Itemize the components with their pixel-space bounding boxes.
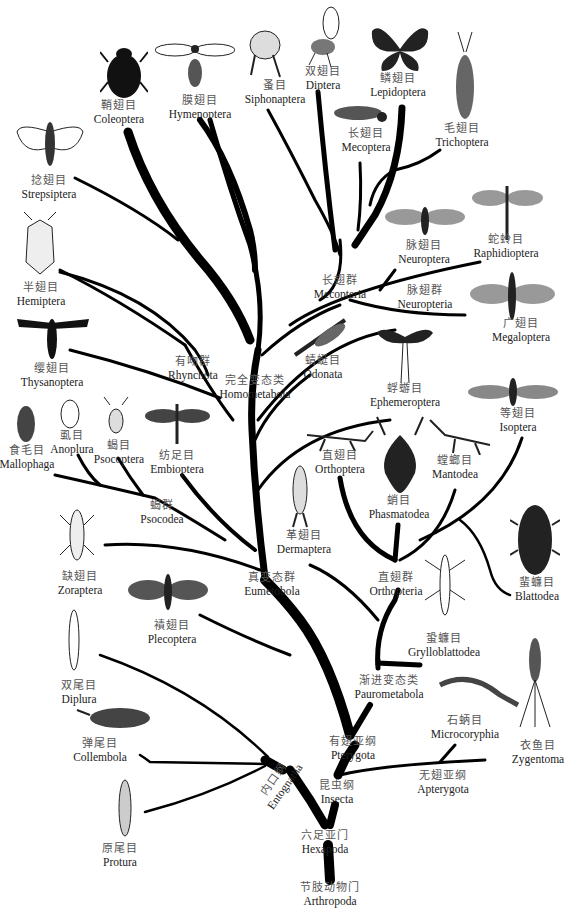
label-en: Mallophaga	[0, 458, 54, 472]
label-zh: 蝎群	[140, 500, 183, 513]
label-en: Neuropteria	[398, 298, 453, 312]
label-dermaptera: 革翅目Dermaptera	[277, 530, 331, 557]
label-zh: 蛸目	[369, 495, 430, 508]
label-zh: 缨翅目	[21, 363, 84, 376]
label-en: Megaloptera	[492, 331, 550, 345]
label-hexapoda: 六足亚门Hexapoda	[301, 830, 349, 857]
label-en: Mantodea	[432, 468, 478, 482]
label-en: Diplura	[61, 693, 97, 707]
label-zh: 渐进变态类	[355, 675, 424, 688]
label-en: Thysanoptera	[21, 376, 84, 390]
mayfly-icon	[375, 325, 435, 385]
label-en: Phasmatodea	[369, 508, 430, 522]
label-mecoptera: 长翅目Mecoptera	[341, 128, 390, 155]
booklouse-icon	[102, 395, 130, 435]
label-en: Orthoptera	[315, 463, 365, 477]
leaf-insect-icon	[375, 415, 425, 495]
label-zh: 节肢动物门	[300, 882, 360, 895]
label-en: Trichoptera	[435, 136, 488, 150]
label-zh: 蚤目	[245, 80, 306, 93]
label-en: Homometabola	[220, 388, 291, 402]
label-en: Ephemeroptera	[370, 396, 440, 410]
label-anoplura: 虱目Anoplura	[50, 430, 93, 457]
label-zh: 原尾目	[102, 843, 138, 856]
label-coleoptera: 鞘翅目Coleoptera	[94, 100, 144, 127]
label-zh: 蜉蝣目	[370, 383, 440, 396]
rock-crawler-icon	[420, 545, 470, 630]
label-en: Collembola	[73, 751, 127, 765]
label-en: Paurometabola	[355, 688, 424, 702]
label-mallophaga: 食毛目Mallophaga	[0, 445, 54, 472]
branch-neuroptera	[380, 270, 395, 290]
label-zh: 纺足目	[150, 450, 204, 463]
termite-icon	[468, 372, 558, 412]
scorpionfly-icon	[330, 95, 390, 130]
label-zh: 衣鱼目	[512, 740, 564, 753]
zoraptera-icon	[60, 495, 95, 570]
label-en: Psocodea	[140, 513, 183, 527]
label-apterygota: 无翅亚纲Apterygota	[417, 770, 469, 797]
branch-hymenoptera	[200, 120, 255, 270]
label-arthropoda: 节肢动物门Arthropoda	[300, 882, 360, 909]
bristletail-icon	[430, 665, 520, 710]
label-en: Coleoptera	[94, 113, 144, 127]
butterfly-icon	[370, 25, 430, 73]
label-zoraptera: 缺翅目Zoraptera	[58, 571, 103, 598]
label-zh: 广翅目	[492, 318, 550, 331]
label-zh: 有吻群	[168, 356, 218, 369]
label-zh: 蜚蠊目	[515, 577, 559, 590]
label-mantodea: 螳螂目Mantodea	[432, 455, 478, 482]
wasp-icon	[155, 35, 235, 90]
label-zh: 双尾目	[61, 680, 97, 693]
label-plecoptera: 襀翅目Plecoptera	[148, 620, 197, 647]
label-en: Pterygota	[329, 749, 377, 763]
mantis-icon	[425, 415, 495, 455]
label-en: Lepidoptera	[370, 86, 426, 100]
label-en: Apterygota	[417, 783, 469, 797]
branch-pterygota-right	[352, 705, 370, 735]
label-en: Zygentoma	[512, 753, 564, 767]
branch-entognatha-collembola	[140, 755, 265, 764]
label-en: Neuroptera	[398, 253, 450, 267]
label-en: Isoptera	[499, 421, 536, 435]
label-en: Raphidioptera	[473, 247, 538, 261]
label-zh: 鞘翅目	[94, 100, 144, 113]
dobsonfly-icon	[470, 268, 555, 323]
fly-icon	[305, 5, 345, 67]
lacewing-icon	[385, 195, 465, 240]
label-zh: 六足亚门	[301, 830, 349, 843]
label-zh: 捻翅目	[22, 175, 77, 188]
label-paurometabola: 渐进变态类Paurometabola	[355, 675, 424, 702]
label-zh: 脉翅目	[398, 240, 450, 253]
flea-icon	[245, 25, 285, 80]
label-zh: 长翅目	[341, 128, 390, 141]
label-zh: 有翅亚纲	[329, 736, 377, 749]
label-orthoptera: 直翅目Orthoptera	[315, 450, 365, 477]
label-en: Siphonaptera	[245, 93, 306, 107]
label-phasmatodea: 蛸目Phasmatodea	[369, 495, 430, 522]
label-zh: 半翅目	[17, 282, 66, 295]
label-blattodea: 蜚蠊目Blattodea	[515, 577, 559, 604]
chewing-louse-icon	[14, 400, 39, 445]
branch-plecoptera	[200, 615, 290, 655]
label-en: Arthropoda	[300, 895, 360, 909]
label-zh: 毛翅目	[435, 123, 488, 136]
label-en: Hymenoptera	[169, 108, 232, 122]
label-zh: 双翅目	[305, 66, 341, 79]
label-orthopteria: 直翅群Orthopteria	[369, 572, 422, 599]
label-zh: 膜翅目	[169, 95, 232, 108]
earwig-icon	[285, 455, 315, 530]
label-en: Psocoptera	[94, 453, 144, 467]
silverfish-icon	[510, 635, 560, 730]
label-insecta: 昆虫纲Insecta	[319, 780, 355, 807]
label-neuropteria: 脉翅群Neuropteria	[398, 285, 453, 312]
label-zh: 昆虫纲	[319, 780, 355, 793]
label-zygentoma: 衣鱼目Zygentoma	[512, 740, 564, 767]
branch-dermaptera	[310, 565, 378, 620]
cockroach-icon	[510, 495, 560, 580]
label-en: Rhynchota	[168, 369, 218, 383]
label-en: Microcoryphia	[431, 728, 499, 742]
label-zh: 无翅亚纲	[417, 770, 469, 783]
branch-mecoptera	[358, 163, 361, 230]
label-zh: 蝎目	[94, 440, 144, 453]
